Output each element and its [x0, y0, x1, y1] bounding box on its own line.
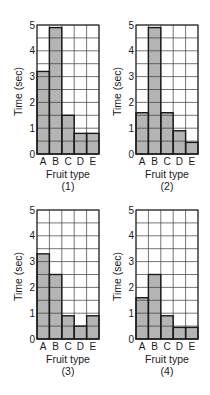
x-tick-labels: ABCDE [40, 341, 97, 352]
x-tick-b: B [52, 156, 59, 167]
bar-d [173, 131, 185, 154]
x-axis-label: Fruit type [46, 168, 90, 180]
x-tick-a: A [139, 156, 146, 167]
bar-b [148, 275, 160, 340]
y-tick-labels: 012345 [29, 205, 35, 345]
y-tick-1: 1 [128, 123, 134, 134]
y-tick-3: 3 [29, 256, 35, 267]
bar-outlines [37, 254, 99, 339]
x-tick-b: B [151, 156, 158, 167]
bars [136, 275, 198, 340]
x-axis-label: Fruit type [46, 353, 90, 365]
bar-a [136, 113, 148, 154]
y-axis-label: Time (sec) [111, 67, 123, 116]
x-tick-a: A [139, 341, 146, 352]
y-tick-5: 5 [29, 205, 35, 216]
x-axis-label: Fruit type [145, 353, 189, 365]
y-tick-4: 4 [29, 45, 35, 56]
y-tick-2: 2 [29, 282, 35, 293]
bars [37, 28, 99, 154]
bar-c [161, 113, 173, 154]
y-tick-labels: 012345 [128, 205, 134, 345]
y-tick-4: 4 [128, 45, 134, 56]
plot-frame [136, 210, 198, 339]
x-tick-a: A [40, 341, 47, 352]
bar-e [87, 133, 99, 154]
bar-b [49, 28, 61, 154]
x-tick-labels: ABCDE [139, 341, 196, 352]
panel-number-label: (1) [62, 180, 75, 192]
x-tick-e: E [89, 341, 96, 352]
bar-e [87, 316, 99, 339]
bar-e [186, 142, 198, 154]
grid [37, 25, 99, 154]
y-tick-labels: 012345 [128, 20, 134, 160]
panel-number-label: (3) [62, 365, 75, 377]
x-tick-c: C [163, 341, 170, 352]
panel-number-label: (4) [161, 365, 174, 377]
y-tick-3: 3 [128, 256, 134, 267]
bar-a [37, 71, 49, 154]
x-tick-labels: ABCDE [40, 156, 97, 167]
chart-panel-4: 012345ABCDEFruit type(4)Time (sec) [0, 0, 210, 395]
x-tick-d: D [176, 341, 183, 352]
y-tick-labels: 012345 [29, 20, 35, 160]
x-tick-d: D [77, 341, 84, 352]
y-axis-label: Time (sec) [111, 252, 123, 301]
plot-frame [37, 25, 99, 154]
y-tick-4: 4 [128, 230, 134, 241]
x-tick-d: D [176, 156, 183, 167]
y-tick-4: 4 [29, 230, 35, 241]
chart-panel-3: 012345ABCDEFruit type(3)Time (sec) [0, 0, 210, 395]
bar-a [136, 298, 148, 339]
y-axis-label: Time (sec) [12, 67, 24, 116]
x-tick-b: B [151, 341, 158, 352]
grid [37, 210, 99, 339]
x-tick-a: A [40, 156, 47, 167]
bar-c [62, 115, 74, 154]
x-tick-d: D [77, 156, 84, 167]
bar-outlines [136, 275, 198, 340]
y-tick-1: 1 [29, 123, 35, 134]
y-tick-0: 0 [29, 334, 35, 345]
y-tick-1: 1 [128, 308, 134, 319]
chart-panel-1: 012345ABCDEFruit type(1)Time (sec) [0, 0, 210, 395]
x-tick-b: B [52, 341, 59, 352]
y-tick-3: 3 [128, 71, 134, 82]
y-tick-2: 2 [128, 282, 134, 293]
bar-b [49, 275, 61, 340]
chart-panel-2: 012345ABCDEFruit type(2)Time (sec) [0, 0, 210, 395]
x-tick-c: C [163, 156, 170, 167]
bar-a [37, 254, 49, 339]
panel-number-label: (2) [161, 180, 174, 192]
y-tick-0: 0 [128, 334, 134, 345]
x-axis-label: Fruit type [145, 168, 189, 180]
bar-d [173, 327, 185, 339]
x-tick-c: C [64, 156, 71, 167]
y-tick-1: 1 [29, 308, 35, 319]
bar-outlines [136, 28, 198, 154]
y-tick-5: 5 [29, 20, 35, 31]
grid [136, 210, 198, 339]
y-tick-5: 5 [128, 20, 134, 31]
bars [37, 254, 99, 339]
bar-outlines [37, 28, 99, 154]
plot-frame [136, 25, 198, 154]
y-tick-0: 0 [29, 149, 35, 160]
y-tick-2: 2 [29, 97, 35, 108]
bar-c [161, 316, 173, 339]
bar-d [74, 326, 86, 339]
y-tick-0: 0 [128, 149, 134, 160]
grid [136, 25, 198, 154]
x-tick-labels: ABCDE [139, 156, 196, 167]
bar-d [74, 133, 86, 154]
bar-b [148, 28, 160, 154]
bar-c [62, 316, 74, 339]
y-tick-5: 5 [128, 205, 134, 216]
y-axis-label: Time (sec) [12, 252, 24, 301]
x-tick-c: C [64, 341, 71, 352]
x-tick-e: E [188, 341, 195, 352]
x-tick-e: E [188, 156, 195, 167]
bar-e [186, 327, 198, 339]
plot-frame [37, 210, 99, 339]
